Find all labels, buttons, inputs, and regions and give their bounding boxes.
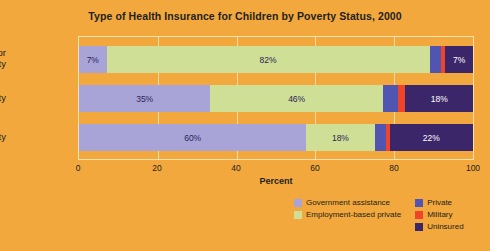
bar-segment: 18% [306,124,374,151]
x-tick-0: 0 [76,163,81,173]
y-axis-label-in-poverty: In poverty [0,131,6,142]
legend-column-right: Private Military Uninsured [415,198,463,231]
chart-figure: Type of Health Insurance for Children by… [0,0,490,251]
bar-segment: 35% [79,85,210,112]
bar-segment: 60% [79,124,306,151]
legend-swatch-icon [415,211,423,219]
legend-item-employment-based-private: Employment-based private [294,210,401,219]
y-axis-label-line: In poverty [0,131,6,142]
x-tick-60: 60 [310,163,319,173]
legend-column-left: Government assistance Employment-based p… [294,198,401,231]
legend-swatch-icon [294,199,302,207]
bar-segment: 18% [405,85,473,112]
legend-item-military: Military [415,210,463,219]
legend-swatch-icon [294,211,302,219]
bar-row: 35%46%18% [79,85,473,112]
x-tick-40: 40 [231,163,240,173]
bar-segment: 46% [210,85,383,112]
x-tick-100: 100 [466,163,480,173]
bar-segment [375,124,386,151]
y-axis-label-line: Not in ornear poverty [0,47,6,69]
x-axis-title: Percent [78,176,474,186]
bar-segment: 7% [445,46,473,73]
legend-swatch-icon [415,199,423,207]
legend-swatch-icon [415,223,423,231]
legend-label: Uninsured [427,222,463,231]
plot-inner: 7%82%7% 35%46%18% 60%18%22% [79,37,473,159]
legend-label: Private [427,198,452,207]
bar-row: 7%82%7% [79,46,473,73]
legend-label: Government assistance [306,198,390,207]
legend-item-uninsured: Uninsured [415,222,463,231]
bar-segment [430,46,442,73]
legend-item-private: Private [415,198,463,207]
bar-segment: 82% [107,46,430,73]
chart-title: Type of Health Insurance for Children by… [0,10,490,22]
legend-label: Employment-based private [306,210,401,219]
y-axis-label-line: Near poverty [0,92,6,103]
x-tick-80: 80 [389,163,398,173]
bar-row: 60%18%22% [79,124,473,151]
plot-area: 7%82%7% 35%46%18% 60%18%22% [78,36,474,160]
y-axis-label-near-poverty: Near poverty [0,92,6,103]
y-axis-label-not-in-or-near-poverty: Not in ornear poverty [0,47,6,69]
legend-item-government-assistance: Government assistance [294,198,401,207]
bar-segment: 7% [79,46,107,73]
bar-segment [383,85,398,112]
bar-segment [398,85,406,112]
legend-label: Military [427,210,452,219]
bar-segment: 22% [390,124,473,151]
chart-legend: Government assistance Employment-based p… [294,198,464,231]
x-tick-20: 20 [152,163,161,173]
